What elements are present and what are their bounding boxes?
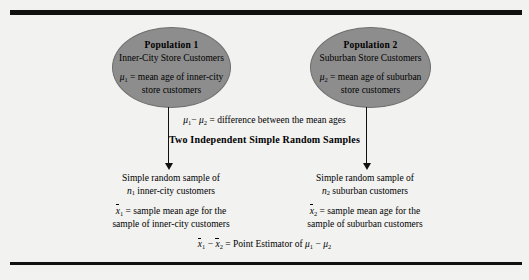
mu-subscript: 1 xyxy=(124,76,127,83)
population-1-subtitle: Inner-City Store Customers xyxy=(119,52,224,64)
mean-difference-text: = difference between the mean ages xyxy=(209,115,345,125)
population-2-subtitle: Suburban Store Customers xyxy=(320,52,422,64)
sample-1-statistic-line2: sample of inner-city customers xyxy=(78,218,264,231)
population-2-parameter-line2: store customers xyxy=(320,84,422,97)
mu-subscript: 2 xyxy=(328,243,331,250)
sample-2-statistic-line1: = sample mean age for the xyxy=(320,206,421,216)
mu-subscript: 1 xyxy=(188,119,191,126)
sample-1-line1: Simple random sample of xyxy=(78,172,264,185)
n-symbol: n xyxy=(322,186,327,196)
minus-operator: − xyxy=(208,239,213,249)
sample-1-block: Simple random sample of n1 inner-city cu… xyxy=(78,172,264,231)
population-2-parameter: μ2 = mean age of suburban store customer… xyxy=(320,71,422,96)
sample-2-statistic-line2: sample of suburban customers xyxy=(272,218,458,231)
minus-operator: − xyxy=(315,239,320,249)
sampling-diagram: Population 1 Inner-City Store Customers … xyxy=(0,0,529,280)
sample-2-statistic: x2 = sample mean age for the sample of s… xyxy=(272,205,458,230)
population-1-title: Population 1 xyxy=(145,39,199,51)
samples-heading: Two Independent Simple Random Samples xyxy=(0,134,529,145)
x-bar-subscript: 2 xyxy=(314,210,317,217)
sample-1-statistic: x1 = sample mean age for the sample of i… xyxy=(78,205,264,230)
top-rule xyxy=(10,10,522,15)
sample-2-line2: n2 suburban customers xyxy=(272,185,458,198)
n-subscript: 1 xyxy=(132,189,135,196)
population-2-title: Population 2 xyxy=(344,39,398,51)
population-1-ellipse: Population 1 Inner-City Store Customers … xyxy=(112,27,231,108)
sample-2-block: Simple random sample of n2 suburban cust… xyxy=(272,172,458,231)
sample-1-line2-rest: inner-city customers xyxy=(137,186,215,196)
x-bar-symbol: x xyxy=(215,239,219,249)
n-subscript: 2 xyxy=(327,189,330,196)
point-estimator-label: = Point Estimator of xyxy=(225,239,302,249)
mu-subscript: 1 xyxy=(310,243,313,250)
population-1-parameter-line1: = mean age of inner-city xyxy=(130,72,223,82)
mu-subscript: 2 xyxy=(204,119,207,126)
population-2-parameter-line1: = mean age of suburban xyxy=(330,72,421,82)
sample-1-line2: n1 inner-city customers xyxy=(78,185,264,198)
x-bar-subscript: 1 xyxy=(202,243,205,250)
sample-1-statistic-line1: = sample mean age for the xyxy=(126,206,227,216)
mean-difference-expression: μ1− μ2 = difference between the mean age… xyxy=(0,115,529,125)
population-1-parameter-line2: store customers xyxy=(120,84,224,97)
population-1-parameter: μ1 = mean age of inner-city store custom… xyxy=(120,71,224,96)
population-2-ellipse: Population 2 Suburban Store Customers μ2… xyxy=(310,27,431,108)
x-bar-subscript: 2 xyxy=(220,243,223,250)
sample-2-line1: Simple random sample of xyxy=(272,172,458,185)
sample-2-line2-rest: suburban customers xyxy=(332,186,408,196)
mu-subscript: 2 xyxy=(324,76,327,83)
minus-operator: − xyxy=(191,115,199,125)
x-bar-subscript: 1 xyxy=(120,210,123,217)
bottom-rule xyxy=(10,262,522,265)
point-estimator-expression: x1 − x2 = Point Estimator of μ1 − μ2 xyxy=(0,239,529,249)
